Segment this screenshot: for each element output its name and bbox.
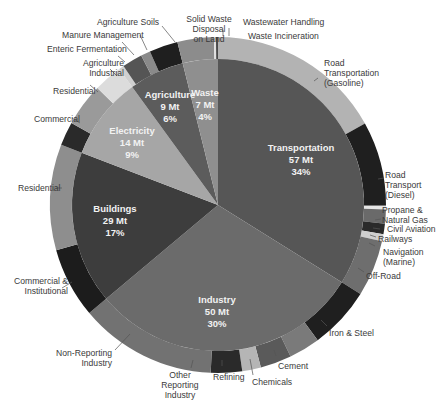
callout-navigation-marine: Navigation(Marine) <box>383 247 424 267</box>
callout-commercial-institutional: Commercial &Institutional <box>0 276 68 296</box>
callout-chemicals: Chemicals <box>252 377 292 387</box>
label-electricity: Electricity14 Mt9% <box>109 125 154 161</box>
callout-manure-management: Manure Management <box>62 30 144 40</box>
callout-enteric-fermentation: Enteric Fermentation <box>47 44 127 54</box>
callout-civil-aviation: Civil Aviation <box>387 224 436 234</box>
callout-other-reporting-industry: OtherReportingIndustry <box>155 370 205 400</box>
callout-agriculture-industrial: AgricultureIndustrial <box>74 58 124 78</box>
callout-agriculture-soils: Agriculture Soils <box>97 17 159 27</box>
callout-off-road: Off-Road <box>366 271 401 281</box>
callout-wastewater-handling: Wastewater Handling <box>243 17 324 27</box>
label-buildings: Buildings29 Mt17% <box>93 203 136 239</box>
callout-road-transportation-gasoline: RoadTransportation(Gasoline) <box>324 58 379 88</box>
label-waste: Waste7 Mt4% <box>191 87 219 123</box>
callout-railways: Railways <box>378 234 412 244</box>
callout-road-transport-diesel: RoadTransport(Diesel) <box>385 170 421 200</box>
callout-propane-natural-gas: Propane &Natural Gas <box>382 205 428 225</box>
label-industry: Industry50 Mt30% <box>198 294 235 330</box>
callout-non-reporting-industry: Non-ReportingIndustry <box>40 348 112 368</box>
callout-iron-steel: Iron & Steel <box>329 328 374 338</box>
callout-buildings-residential: Residential <box>18 183 61 193</box>
callout-electricity-commercial: Commercial <box>34 114 80 124</box>
callout-electricity-residential: Residential <box>53 86 96 96</box>
subsector-other-reporting-industry <box>211 349 243 373</box>
callout-refining: Refining <box>213 372 245 382</box>
label-agriculture: Agriculture9 Mt6% <box>145 89 196 125</box>
callout-solid-waste-disposal: Solid WasteDisposalon Land <box>180 14 238 44</box>
callout-waste-incineration: Waste Incineration <box>248 31 319 41</box>
callout-cement: Cement <box>278 361 308 371</box>
label-transportation: Transportation57 Mt34% <box>268 142 335 178</box>
